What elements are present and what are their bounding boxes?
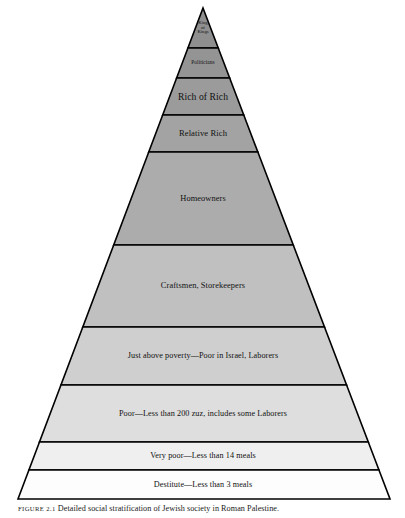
figure-caption-label: FIGURE 2.1 (18, 505, 56, 512)
pyramid-band-label-line: Politicians (191, 59, 214, 65)
pyramid-band-label-line: Craftsmen, Storekeepers (161, 281, 245, 290)
pyramid-band-label: Destitute—Less than 3 meals (154, 480, 252, 489)
pyramid-diagram (0, 0, 405, 505)
pyramid-band-label: KingofKings (197, 21, 208, 35)
pyramid-band-label: Just above poverty—Poor in Israel, Labor… (128, 352, 278, 361)
pyramid-band-label-line: Destitute—Less than 3 meals (154, 479, 252, 488)
figure-container: KingofKingsPoliticiansRich of RichRelati… (0, 0, 405, 518)
pyramid-band-label: Poor—Less than 200 zuz, includes some La… (119, 409, 287, 418)
pyramid-band-label-line: Rich of Rich (178, 90, 228, 101)
figure-caption: FIGURE 2.1 Detailed social stratificatio… (18, 504, 398, 514)
pyramid-band-label-line: Very poor—Less than 14 meals (150, 451, 256, 460)
pyramid-band-label: Rich of Rich (178, 91, 228, 101)
pyramid-band-label-line: Relative Rich (179, 128, 227, 138)
pyramid-band-label: Homeowners (180, 194, 226, 203)
figure-caption-text: Detailed social stratification of Jewish… (58, 504, 279, 513)
pyramid-band-label: Politicians (191, 60, 214, 66)
pyramid-band-label-line: Kings (197, 29, 208, 34)
pyramid-band-label-line: Just above poverty—Poor in Israel, Labor… (128, 351, 278, 360)
pyramid-band-label-line: Homeowners (180, 194, 226, 203)
pyramid-band-label: Relative Rich (179, 129, 227, 138)
pyramid-band-label-line: Poor—Less than 200 zuz, includes some La… (119, 408, 287, 417)
pyramid-band-label: Very poor—Less than 14 meals (150, 452, 256, 461)
pyramid-band-shapes (18, 8, 390, 499)
pyramid-band-label: Craftsmen, Storekeepers (161, 281, 245, 290)
